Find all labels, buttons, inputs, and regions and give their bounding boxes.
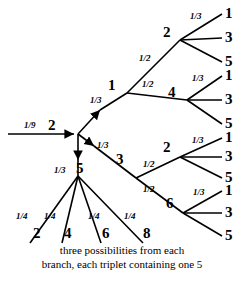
node-label-5: 5 — [76, 161, 84, 176]
leaf-label-6: 6 — [102, 226, 110, 241]
probability-label-3-to-6: 1/2 — [143, 185, 155, 194]
probability-label-1-to-4: 1/2 — [142, 80, 154, 89]
edge-root-to-3 — [78, 134, 94, 146]
probability-label-1-to-2: 1/2 — [139, 54, 151, 63]
probability-label-5-to-2: 1/4 — [16, 212, 28, 221]
caption-line-2: branch, each triplet containing one 5 — [0, 258, 244, 272]
leaf-label-g4-5: 5 — [225, 228, 233, 243]
leaf-label-g4-3: 3 — [225, 205, 233, 220]
node-label-1: 1 — [108, 78, 116, 93]
edge-2bot-leaf-5 — [180, 157, 222, 178]
node-label-root-2: 2 — [48, 118, 56, 133]
probability-label-root-to-3: 1/3 — [97, 141, 109, 150]
node-label-4: 4 — [168, 85, 176, 100]
leaf-label-2: 2 — [33, 226, 41, 241]
edge-root-to-1 — [78, 110, 100, 134]
caption-line-1: three possibilities from each — [0, 244, 244, 258]
node-label-2-top: 2 — [163, 25, 171, 40]
leaf-label-g2-3: 3 — [225, 92, 233, 107]
probability-label-entry: 1/9 — [24, 121, 36, 130]
tree-diagram-canvas: 1/9 2 1/3 1 1/3 3 1/3 5 1/2 2 1/2 4 1/2 … — [0, 0, 244, 282]
edge-6-leaf-5 — [183, 213, 222, 236]
probability-label-group1: 1/3 — [190, 12, 202, 21]
edge-2top-leaf-3 — [180, 38, 222, 40]
probability-label-5-to-6: 1/4 — [88, 212, 100, 221]
probability-label-group2: 1/3 — [192, 74, 204, 83]
probability-label-3-to-2: 1/2 — [143, 160, 155, 169]
caption: three possibilities from each branch, ea… — [0, 244, 244, 272]
probability-label-root-to-5: 1/3 — [54, 166, 66, 175]
leaf-label-g3-1: 1 — [225, 130, 233, 145]
probability-label-5-to-8: 1/4 — [124, 212, 136, 221]
leaf-label-g1-1: 1 — [225, 6, 233, 21]
probability-label-5-to-4: 1/4 — [44, 212, 56, 221]
node-label-6: 6 — [166, 196, 174, 211]
leaf-label-g2-1: 1 — [225, 68, 233, 83]
leaf-label-g4-1: 1 — [225, 183, 233, 198]
edge-root-to-1-cont — [100, 93, 127, 110]
node-label-3: 3 — [116, 152, 124, 167]
edge-5-leaf-6 — [78, 176, 101, 243]
probability-label-group3: 1/3 — [192, 136, 204, 145]
edge-1-to-4 — [127, 93, 187, 100]
leaf-label-4: 4 — [64, 226, 72, 241]
leaf-label-g3-3: 3 — [225, 149, 233, 164]
leaf-label-8: 8 — [143, 226, 151, 241]
edge-2top-leaf-5 — [180, 40, 222, 62]
probability-label-root-to-1: 1/3 — [90, 96, 102, 105]
edge-5-leaf-8 — [78, 176, 143, 243]
leaf-label-g1-3: 3 — [225, 30, 233, 45]
node-label-2-bottom: 2 — [163, 140, 171, 155]
probability-label-group4: 1/3 — [193, 188, 205, 197]
edge-4-leaf-5 — [187, 100, 222, 124]
edge-root-to-3-cont — [94, 146, 136, 178]
